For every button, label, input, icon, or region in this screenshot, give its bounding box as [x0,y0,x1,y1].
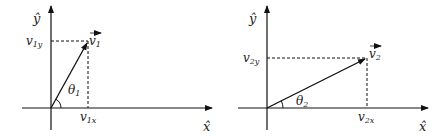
vector-label: v1 [89,34,101,49]
y-axis-label: ŷ [248,11,257,26]
vector-label: v2 [369,47,381,62]
angle-arc [281,101,283,108]
angle-label: θ2 [296,94,308,109]
x-component-label: v2x [358,110,375,125]
vector-diagrams: ŷ x̂ v1 v1y v1x θ1 ŷ x̂ v2 v2y v2x θ2 [0,0,448,136]
angle-arc [56,99,61,108]
diagram-vector-1: ŷ x̂ v1 v1y v1x θ1 [22,6,212,134]
vector-arrow [51,43,87,108]
y-component-label: v1y [26,34,43,49]
angle-label: θ1 [68,83,80,98]
x-axis-label: x̂ [419,119,427,134]
diagram-vector-2: ŷ x̂ v2 v2y v2x θ2 [238,6,428,134]
x-axis-label: x̂ [203,119,211,134]
y-axis-label: ŷ [32,11,41,26]
y-component-label: v2y [243,51,260,66]
x-component-label: v1x [80,110,97,125]
